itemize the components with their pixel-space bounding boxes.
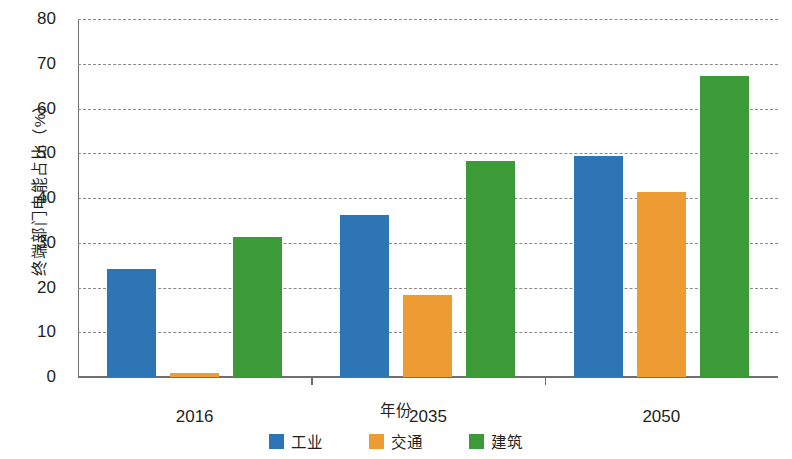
legend-label: 工业 — [291, 430, 323, 452]
y-tick-label: 20 — [16, 278, 56, 298]
bar-工业-2016 — [107, 269, 156, 377]
bar-交通-2050 — [637, 192, 686, 377]
bar-group — [78, 19, 311, 377]
legend-label: 交通 — [391, 430, 423, 452]
chart-legend: 工业交通建筑 — [0, 430, 792, 452]
bar-建筑-2035 — [466, 161, 515, 377]
bar-建筑-2016 — [233, 237, 282, 377]
legend-item-工业[interactable]: 工业 — [269, 430, 323, 452]
legend-item-交通[interactable]: 交通 — [369, 430, 423, 452]
x-axis-tick — [311, 377, 312, 385]
bar-工业-2050 — [574, 156, 623, 377]
y-tick-label: 40 — [16, 188, 56, 208]
plot-area: 01020304050607080201620352050 — [78, 19, 778, 377]
y-tick-label: 50 — [16, 143, 56, 163]
bar-建筑-2050 — [700, 76, 749, 377]
legend-swatch-icon — [469, 434, 484, 449]
y-tick-label: 0 — [16, 367, 56, 387]
bar-group — [311, 19, 544, 377]
y-tick-label: 80 — [16, 9, 56, 29]
legend-label: 建筑 — [491, 430, 523, 452]
bar-chart: 终端部门电能占比（%） 0102030405060708020162035205… — [0, 0, 792, 459]
legend-swatch-icon — [269, 434, 284, 449]
bar-工业-2035 — [340, 215, 389, 377]
y-tick-label: 70 — [16, 54, 56, 74]
y-tick-label: 60 — [16, 99, 56, 119]
legend-item-建筑[interactable]: 建筑 — [469, 430, 523, 452]
bar-group — [545, 19, 778, 377]
x-axis-tick — [545, 377, 546, 385]
bar-交通-2016 — [170, 373, 219, 377]
y-tick-label: 10 — [16, 322, 56, 342]
y-tick-label: 30 — [16, 233, 56, 253]
x-axis-title: 年份 — [0, 398, 792, 420]
bar-交通-2035 — [403, 295, 452, 377]
legend-swatch-icon — [369, 434, 384, 449]
